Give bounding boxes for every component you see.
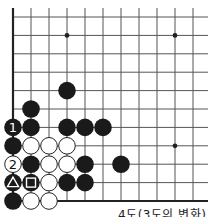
black-stone bbox=[76, 119, 94, 137]
white-stone bbox=[59, 138, 76, 155]
black-stone-icon bbox=[4, 137, 22, 155]
go-board: 12 bbox=[0, 0, 208, 217]
black-stone-icon bbox=[76, 174, 94, 192]
star-point-icon bbox=[173, 143, 178, 148]
white-stone-icon bbox=[41, 193, 58, 210]
white-stone-icon bbox=[59, 138, 76, 155]
white-stone bbox=[41, 174, 58, 191]
star-point-icon bbox=[65, 33, 70, 38]
white-stone bbox=[59, 156, 76, 173]
move-number-label: 1 bbox=[9, 120, 17, 135]
black-stone bbox=[22, 155, 40, 173]
board-grid bbox=[13, 8, 208, 202]
black-stone-icon bbox=[58, 119, 76, 137]
black-stone bbox=[94, 119, 112, 137]
black-stone bbox=[58, 119, 76, 137]
black-stone bbox=[4, 137, 22, 155]
white-stone-icon bbox=[59, 156, 76, 173]
black-stone-icon bbox=[94, 119, 112, 137]
black-stone bbox=[58, 82, 76, 100]
black-stone-icon bbox=[76, 119, 94, 137]
black-stone-icon bbox=[22, 100, 40, 118]
black-stone bbox=[4, 192, 22, 210]
black-stone bbox=[112, 155, 130, 173]
black-stone-icon bbox=[22, 174, 40, 192]
white-stone bbox=[23, 193, 40, 210]
white-stone-icon bbox=[41, 174, 58, 191]
move-number-label: 2 bbox=[9, 157, 17, 172]
black-stone-icon bbox=[58, 82, 76, 100]
black-stone-icon bbox=[58, 174, 76, 192]
black-stone bbox=[22, 119, 40, 137]
white-stone-icon bbox=[23, 138, 40, 155]
white-stone bbox=[41, 193, 58, 210]
black-stone: 1 bbox=[4, 119, 22, 137]
white-stone bbox=[41, 138, 58, 155]
black-stone-icon bbox=[22, 119, 40, 137]
star-point-icon bbox=[173, 33, 178, 38]
black-stone bbox=[22, 174, 40, 192]
black-stone bbox=[58, 174, 76, 192]
black-stone-icon bbox=[22, 155, 40, 173]
white-stone bbox=[23, 138, 40, 155]
white-stone-icon bbox=[41, 138, 58, 155]
diagram-caption: 4도(3도의 변화) bbox=[118, 205, 206, 217]
black-stone-icon bbox=[76, 155, 94, 173]
black-stone bbox=[76, 174, 94, 192]
black-stone bbox=[22, 100, 40, 118]
white-stone bbox=[41, 156, 58, 173]
white-stone-icon bbox=[23, 193, 40, 210]
white-stone: 2 bbox=[5, 156, 22, 173]
white-stone-icon bbox=[41, 156, 58, 173]
black-stone-icon bbox=[112, 155, 130, 173]
black-stone bbox=[76, 155, 94, 173]
black-stone-icon bbox=[4, 192, 22, 210]
black-stone bbox=[4, 174, 22, 192]
